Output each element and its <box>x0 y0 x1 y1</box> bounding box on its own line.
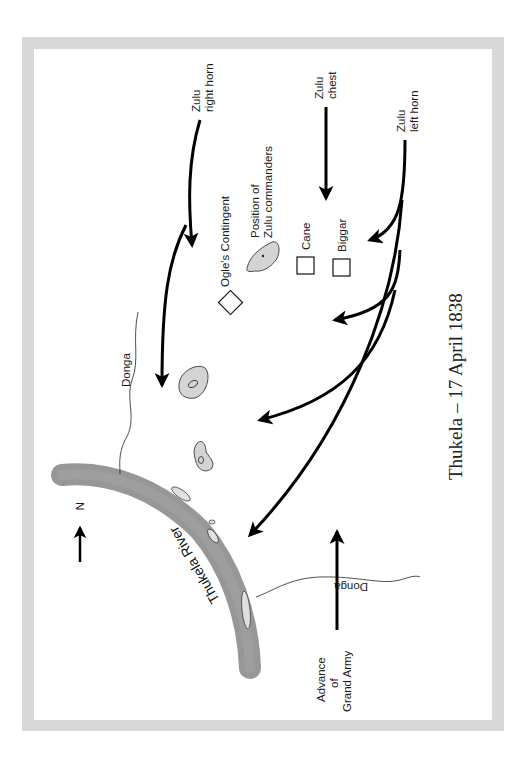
svg-text:Advance: Advance <box>315 657 327 702</box>
right-horn-arrow <box>190 120 200 245</box>
commanders-label: Position of Zulu commanders <box>249 146 274 238</box>
svg-text:Zulu: Zulu <box>190 90 202 112</box>
thukela-river <box>62 474 252 668</box>
north-label: N <box>74 502 86 510</box>
zulu-commanders-position <box>247 242 279 272</box>
chest-label: Zulu chest <box>313 71 338 99</box>
donga-bottom-label: Donga <box>334 581 368 593</box>
biggar-marker <box>333 259 350 276</box>
grand-army-label: Advance of Grand Army <box>315 650 353 712</box>
ogle-label: Ogle's Contingent <box>219 195 231 287</box>
left-horn-arrow-3 <box>260 290 395 420</box>
svg-text:Zulu commanders: Zulu commanders <box>262 146 274 238</box>
svg-text:of: of <box>328 678 340 688</box>
svg-text:right horn: right horn <box>203 63 215 112</box>
svg-text:Zulu: Zulu <box>313 77 325 99</box>
svg-text:Zulu: Zulu <box>395 110 407 132</box>
cane-marker <box>297 257 314 274</box>
left-horn-label: Zulu left horn <box>395 90 420 132</box>
battle-map: Thukela River Donga Donga N <box>0 0 516 776</box>
ogle-contingent-marker <box>218 290 242 314</box>
hill-bottom <box>194 441 213 470</box>
svg-text:Position of: Position of <box>249 183 261 238</box>
map-title: Thukela – 17 April 1838 <box>445 293 466 480</box>
donga-top-label: Donga <box>120 353 132 387</box>
donga-top-line <box>120 312 138 474</box>
svg-text:chest: chest <box>326 71 338 99</box>
svg-text:left horn: left horn <box>408 90 420 132</box>
right-horn-label: Zulu right horn <box>190 63 215 112</box>
hill-top <box>179 366 208 398</box>
biggar-label: Biggar <box>336 219 348 252</box>
svg-text:Grand Army: Grand Army <box>341 650 353 712</box>
right-horn-arrow-2 <box>162 225 186 385</box>
cane-label: Cane <box>300 223 312 251</box>
